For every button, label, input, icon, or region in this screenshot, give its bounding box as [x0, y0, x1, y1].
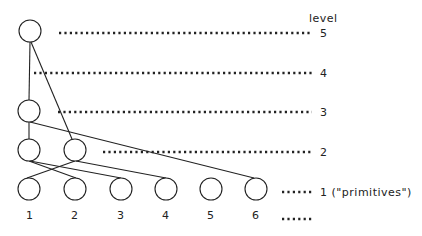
edge-n2b-p4: [76, 161, 166, 178]
level-header: level: [309, 12, 338, 25]
node-level-3: [18, 100, 40, 122]
node-primitive-5: [200, 178, 222, 200]
level-hierarchy-diagram: level 5 4 3 2 1 ("primitives") 1 2 3 4 5…: [0, 0, 422, 236]
node-level-2-a: [18, 139, 40, 161]
node-level-2-b: [64, 139, 86, 161]
primitive-label-6: 6: [252, 209, 260, 222]
node-primitive-6: [245, 178, 267, 200]
primitive-label-2: 2: [71, 209, 79, 222]
node-primitive-3: [110, 178, 132, 200]
node-primitive-1: [18, 178, 40, 200]
node-level-5: [19, 20, 41, 42]
level-5-label: 5: [320, 27, 328, 40]
edge-n5-n2b: [31, 42, 72, 139]
primitive-label-4: 4: [162, 209, 170, 222]
node-primitive-4: [155, 178, 177, 200]
level-1-primitives-label: 1 ("primitives"): [320, 186, 412, 199]
level-2-label: 2: [320, 146, 328, 159]
node-primitive-2: [64, 178, 86, 200]
edge-n2a-p3: [30, 161, 121, 178]
primitive-label-1: 1: [26, 209, 34, 222]
primitive-label-3: 3: [117, 209, 125, 222]
primitive-label-5: 5: [207, 209, 215, 222]
level-3-label: 3: [320, 106, 328, 119]
edge-n5-n3: [29, 42, 30, 100]
level-4-label: 4: [320, 67, 328, 80]
